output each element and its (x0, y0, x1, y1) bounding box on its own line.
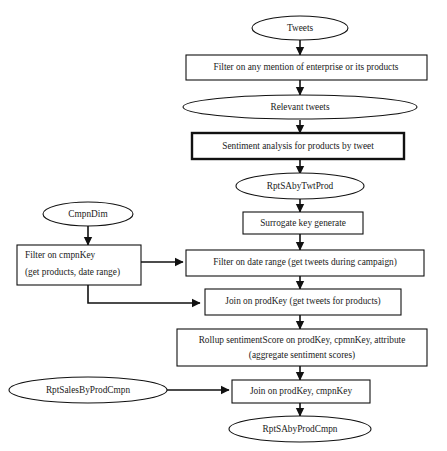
node-join-prodkey[interactable]: Join on prodKey (get tweets for products… (205, 289, 401, 315)
node-surrogate-key[interactable]: Surrogate key generate (243, 212, 363, 234)
node-join-prodkey-label: Join on prodKey (get tweets for products… (225, 296, 380, 307)
node-filter-cmpnkey[interactable]: Filter on cmpnKey (get products, date ra… (17, 245, 141, 285)
node-rptsabytwtprod[interactable]: RptSAbyTwtProd (236, 173, 364, 199)
node-rptsalesbyprodcmpn[interactable]: RptSalesByProdCmpn (9, 377, 167, 403)
node-rptsabytwtprod-label: RptSAbyTwtProd (267, 181, 334, 191)
node-cmpndim-label: CmpnDim (68, 209, 108, 219)
node-join-prodkey-cmpnkey[interactable]: Join on prodKey, cmpnKey (232, 380, 370, 403)
node-rptsalesbyprodcmpn-label: RptSalesByProdCmpn (46, 385, 131, 395)
node-rollup[interactable]: Rollup sentimentScore on prodKey, cpmnKe… (177, 329, 427, 366)
flowchart-canvas: Tweets Filter on any mention of enterpri… (0, 0, 447, 451)
node-rptsabyprodcmpn[interactable]: RptSAbyProdCmpn (229, 416, 371, 442)
node-filter-cmpnkey-line1: Filter on cmpnKey (25, 250, 96, 260)
node-relevant-tweets[interactable]: Relevant tweets (183, 95, 417, 119)
node-sentiment-analysis-label: Sentiment analysis for products by tweet (222, 141, 374, 151)
node-filter-mention[interactable]: Filter on any mention of enterprise or i… (186, 55, 427, 80)
node-filter-date-range[interactable]: Filter on date range (get tweets during … (186, 250, 424, 276)
node-filter-mention-label: Filter on any mention of enterprise or i… (214, 62, 399, 72)
node-rollup-line2: (aggregate sentiment scores) (249, 350, 355, 361)
node-sentiment-analysis[interactable]: Sentiment analysis for products by tweet (192, 133, 404, 159)
node-filter-cmpnkey-line2: (get products, date range) (25, 267, 120, 278)
node-rptsabyprodcmpn-label: RptSAbyProdCmpn (263, 424, 338, 434)
edge-filter-cmpnkey-to-join-prodkey (88, 285, 200, 303)
flowchart-svg: Tweets Filter on any mention of enterpri… (0, 0, 447, 451)
node-cmpndim[interactable]: CmpnDim (43, 202, 133, 226)
node-surrogate-key-label: Surrogate key generate (260, 218, 346, 228)
node-tweets-label: Tweets (287, 23, 314, 33)
node-rollup-line1: Rollup sentimentScore on prodKey, cpmnKe… (199, 335, 406, 345)
node-join-prodkey-cmpnkey-label: Join on prodKey, cmpnKey (250, 386, 353, 396)
node-filter-date-range-label: Filter on date range (get tweets during … (213, 257, 397, 268)
node-relevant-tweets-label: Relevant tweets (270, 102, 329, 112)
node-tweets[interactable]: Tweets (252, 16, 348, 40)
